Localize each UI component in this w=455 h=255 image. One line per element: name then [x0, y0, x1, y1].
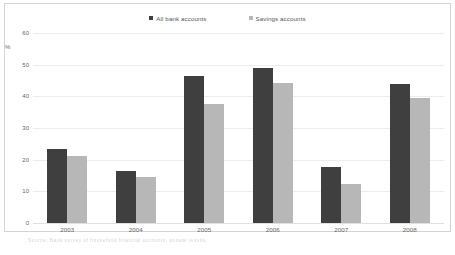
bar-chart-figure: All bank accounts Savings accounts % 010… [0, 0, 455, 255]
bar-2006-series-1 [273, 83, 293, 223]
y-axis-tick-40: 40 [3, 93, 29, 99]
y-axis-tick-50: 50 [3, 62, 29, 68]
bar-group-2005 [177, 33, 231, 223]
bar-2006-series-0 [253, 68, 273, 223]
bar-2003-series-1 [67, 156, 87, 223]
bar-2008-series-0 [390, 84, 410, 223]
bar-group-2004 [109, 33, 163, 223]
bar-2003-series-0 [47, 149, 67, 223]
bar-2008-series-1 [410, 98, 430, 223]
bar-2004-series-1 [136, 177, 156, 223]
bar-2004-series-0 [116, 171, 136, 223]
bar-2007-series-1 [341, 184, 361, 223]
bar-series-container [33, 33, 444, 223]
bar-2005-series-0 [184, 76, 204, 223]
y-axis-tick-60: 60 [3, 30, 29, 36]
bar-group-2008 [383, 33, 437, 223]
bar-2007-series-0 [321, 167, 341, 223]
y-axis-tick-20: 20 [3, 157, 29, 163]
chart-footnote: Source: Bank survey of household financi… [28, 237, 428, 249]
gridline-0 [33, 223, 444, 224]
y-axis-tick-10: 10 [3, 188, 29, 194]
bar-group-2007 [314, 33, 368, 223]
bar-group-2003 [40, 33, 94, 223]
y-axis-tick-labels: 0102030405060 [0, 33, 29, 223]
y-axis-tick-0: 0 [3, 220, 29, 226]
bar-2005-series-1 [204, 104, 224, 223]
y-axis-tick-30: 30 [3, 125, 29, 131]
bar-group-2006 [246, 33, 300, 223]
